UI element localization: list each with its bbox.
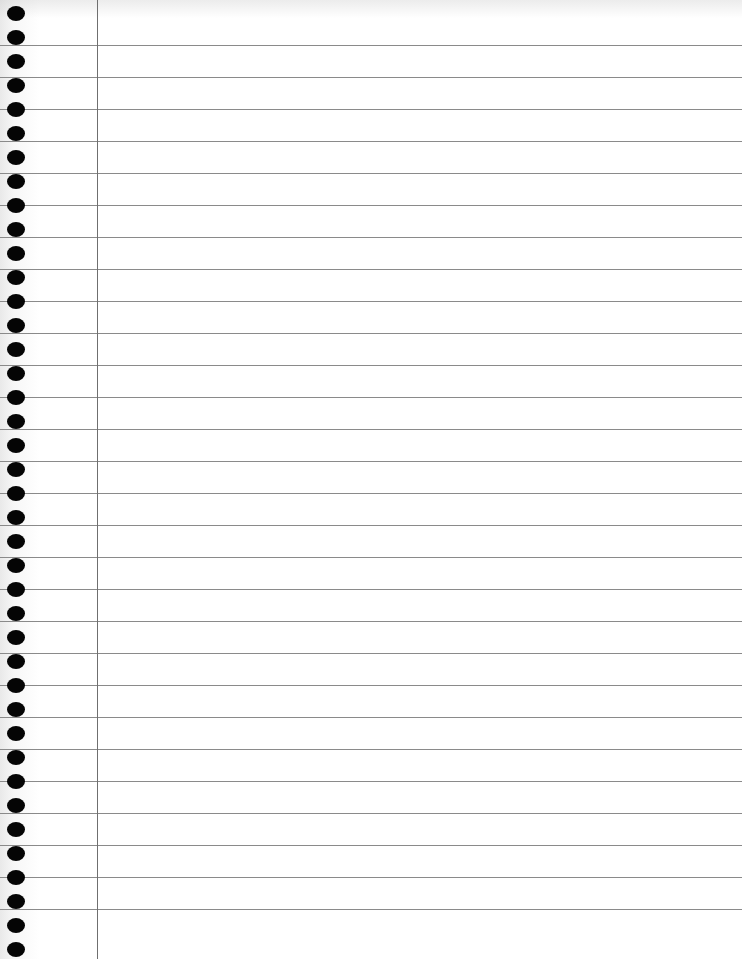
binder-hole (7, 318, 25, 333)
binder-hole (7, 342, 25, 357)
binder-hole (7, 774, 25, 789)
ruled-line (0, 461, 742, 462)
binder-hole (7, 102, 25, 117)
ruled-line (0, 557, 742, 558)
ruled-line (0, 237, 742, 238)
ruled-line (0, 717, 742, 718)
binder-hole (7, 126, 25, 141)
ruled-line (0, 749, 742, 750)
binder-hole (7, 150, 25, 165)
binder-hole (7, 894, 25, 909)
binder-hole (7, 174, 25, 189)
binder-hole (7, 414, 25, 429)
binder-hole (7, 510, 25, 525)
ruled-line (0, 109, 742, 110)
binder-hole (7, 534, 25, 549)
binder-hole (7, 870, 25, 885)
binder-hole (7, 270, 25, 285)
ruled-line (0, 301, 742, 302)
binder-hole (7, 438, 25, 453)
binder-hole (7, 702, 25, 717)
binder-hole (7, 558, 25, 573)
ruled-line (0, 909, 742, 910)
ruled-line (0, 525, 742, 526)
binder-hole (7, 606, 25, 621)
ruled-line (0, 493, 742, 494)
binder-hole (7, 222, 25, 237)
ruled-line (0, 685, 742, 686)
binder-hole (7, 750, 25, 765)
ruled-line (0, 141, 742, 142)
binder-hole (7, 198, 25, 213)
ruled-line (0, 205, 742, 206)
binder-hole (7, 390, 25, 405)
ruled-line (0, 877, 742, 878)
binder-hole (7, 846, 25, 861)
binder-hole (7, 246, 25, 261)
ruled-line (0, 653, 742, 654)
binder-hole (7, 726, 25, 741)
binder-hole (7, 366, 25, 381)
ruled-line (0, 397, 742, 398)
ruled-line (0, 621, 742, 622)
ruled-line (0, 45, 742, 46)
ruled-line (0, 333, 742, 334)
ruled-line (0, 589, 742, 590)
binder-hole (7, 822, 25, 837)
ruled-line (0, 269, 742, 270)
ruled-line (0, 781, 742, 782)
binder-hole (7, 6, 25, 21)
ruled-line (0, 429, 742, 430)
ruled-line (0, 813, 742, 814)
binder-hole (7, 30, 25, 45)
top-edge-shadow (0, 0, 742, 18)
notebook-paper (0, 0, 742, 959)
binder-hole (7, 54, 25, 69)
binder-hole (7, 630, 25, 645)
binder-hole (7, 582, 25, 597)
ruled-line (0, 845, 742, 846)
binder-hole (7, 486, 25, 501)
binder-hole (7, 78, 25, 93)
binder-hole (7, 294, 25, 309)
ruled-line (0, 173, 742, 174)
binder-hole (7, 942, 25, 957)
margin-line (97, 0, 98, 959)
binder-hole (7, 798, 25, 813)
binder-hole (7, 918, 25, 933)
ruled-line (0, 365, 742, 366)
binder-hole (7, 678, 25, 693)
binder-hole (7, 654, 25, 669)
binder-hole (7, 462, 25, 477)
ruled-line (0, 77, 742, 78)
